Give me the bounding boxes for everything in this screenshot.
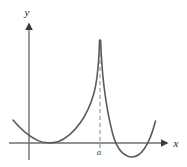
plot-canvas: y x a <box>0 0 187 167</box>
curve-left-branch <box>13 40 100 143</box>
curve-right-branch <box>101 40 156 157</box>
function-graph-figure: y x a <box>0 0 187 167</box>
asymptote-tick-label-a: a <box>97 147 102 157</box>
x-axis-arrowhead <box>161 139 169 147</box>
x-axis-label: x <box>173 137 179 149</box>
y-axis-arrowhead <box>25 23 33 31</box>
y-axis-label: y <box>24 6 30 18</box>
axes-group <box>9 23 169 161</box>
